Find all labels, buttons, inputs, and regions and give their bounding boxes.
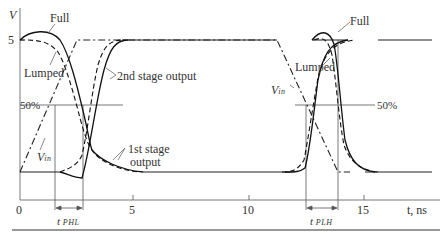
tplh-label: t PLH bbox=[310, 215, 332, 229]
first-stage-output-label-2: output bbox=[130, 156, 161, 168]
vin-label-right: Vin bbox=[271, 84, 286, 98]
tphl-label: t PHL bbox=[57, 215, 79, 229]
second-stage-full-curve bbox=[60, 40, 128, 178]
full-label-left: Full bbox=[50, 12, 69, 24]
vin-label-left: Vin bbox=[37, 151, 52, 165]
x-tick-label-10: 10 bbox=[242, 204, 254, 216]
second-stage-output-label: 2nd stage output bbox=[117, 70, 196, 82]
full-label-right: Full bbox=[350, 15, 369, 27]
x-tick-label-0: 0 bbox=[16, 204, 22, 216]
x-tick-label-5: 5 bbox=[129, 204, 135, 216]
y-axis-label: V bbox=[9, 9, 16, 21]
lumped-label-right: Lumped bbox=[295, 61, 335, 73]
fifty-percent-label-left: 50% bbox=[20, 99, 40, 111]
x-axis-label: t, ns bbox=[407, 204, 427, 216]
fifty-percent-label-right: 50% bbox=[377, 99, 397, 111]
first-stage-output-label-1: 1st stage bbox=[128, 143, 170, 155]
axes bbox=[12, 8, 440, 230]
annotation-leaders bbox=[40, 22, 350, 160]
lumped-label-left: Lumped bbox=[24, 67, 64, 79]
right-fall-full-curve bbox=[312, 33, 375, 172]
tphl-marker bbox=[55, 105, 83, 210]
y-tick-label-5: 5 bbox=[8, 34, 14, 46]
propagation-delay-diagram bbox=[0, 0, 445, 238]
x-tick-label-15: 15 bbox=[357, 204, 369, 216]
